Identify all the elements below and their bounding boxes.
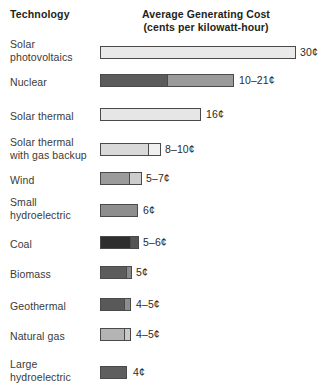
cost-bar-segment-high [130,237,138,248]
cost-value-label: 6¢ [143,204,155,217]
cost-bar [100,366,127,379]
cost-bar [100,328,131,341]
cost-bar [100,204,138,217]
cost-bar [100,236,139,249]
cost-bar-segment-low [101,237,131,248]
cost-value-label: 5–6¢ [143,236,167,249]
cost-bar-segment-low [101,47,295,58]
row-label-technology: Nuclear [10,76,47,89]
cost-bar [100,143,161,156]
cost-value-label: 4–5¢ [136,298,160,311]
cost-value-label: 4¢ [133,366,145,379]
row-label-technology: Natural gas [10,330,65,343]
cost-bar-segment-low [101,109,200,120]
cost-bar [100,172,142,185]
cost-bar-segment-low [101,299,125,310]
cost-bar [100,74,234,87]
row-label-technology: Solar thermal [10,110,74,123]
cost-bar-segment-low [101,144,149,155]
row-label-technology: Solar thermal with gas backup [10,136,87,161]
cost-bar-segment-high [124,329,130,340]
cost-value-label: 5–7¢ [146,172,170,185]
row-label-technology: Wind [10,174,34,187]
cost-bar [100,266,132,279]
cost-bar-segment-high [167,75,233,86]
cost-bar [100,298,131,311]
cost-bar-segment-high [124,299,130,310]
row-label-technology: Geothermal [10,300,66,313]
row-label-technology: Coal [10,238,32,251]
row-label-technology: Small hydroelectric [10,196,71,221]
cost-bar-segment-high [148,144,160,155]
cost-bar-segment-low [101,173,130,184]
row-label-technology: Biomass [10,268,51,281]
cost-bar-segment-low [101,267,127,278]
cost-value-label: 10–21¢ [239,74,275,87]
cost-bar-segment-high [129,173,141,184]
cost-value-label: 8–10¢ [165,143,195,156]
cost-bar-segment-low [101,329,125,340]
cost-value-label: 5¢ [136,266,148,279]
cost-bar-segment-low [101,75,168,86]
cost-bar-segment-high [126,267,131,278]
cost-value-label: 4–5¢ [136,328,160,341]
bar-chart-rows: Solar photovoltaics30¢Nuclear10–21¢Solar… [0,0,326,391]
cost-value-label: 30¢ [300,46,318,59]
cost-bar-segment-low [101,205,137,216]
row-label-technology: Large hydroelectric [10,358,71,383]
cost-value-label: 16¢ [206,108,224,121]
cost-bar [100,108,201,121]
cost-bar-segment-low [101,367,126,378]
cost-bar [100,46,296,59]
row-label-technology: Solar photovoltaics [10,38,73,63]
